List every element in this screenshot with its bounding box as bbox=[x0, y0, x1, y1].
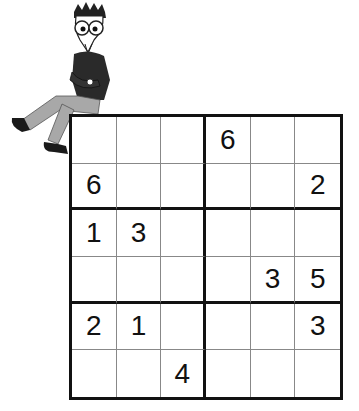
sudoku-cell[interactable] bbox=[251, 350, 296, 397]
sudoku-cell[interactable]: 4 bbox=[161, 350, 206, 397]
sudoku-cell[interactable] bbox=[251, 304, 296, 351]
sudoku-cell[interactable]: 3 bbox=[117, 210, 162, 257]
sudoku-cell[interactable]: 1 bbox=[72, 210, 117, 257]
sudoku-cell[interactable] bbox=[251, 117, 296, 164]
sudoku-cell[interactable] bbox=[117, 350, 162, 397]
sudoku-cell[interactable] bbox=[295, 117, 340, 164]
sudoku-cell[interactable] bbox=[251, 164, 296, 211]
sudoku-cell[interactable] bbox=[295, 210, 340, 257]
sudoku-cell[interactable] bbox=[117, 164, 162, 211]
sudoku-cell[interactable] bbox=[117, 257, 162, 304]
sudoku-grid: 66213352134 bbox=[69, 114, 343, 400]
sudoku-cell[interactable] bbox=[206, 164, 251, 211]
sudoku-cell[interactable] bbox=[161, 164, 206, 211]
sudoku-cell[interactable] bbox=[295, 350, 340, 397]
sudoku-cell[interactable]: 3 bbox=[295, 304, 340, 351]
sudoku-cell[interactable] bbox=[206, 350, 251, 397]
sudoku-cell[interactable]: 3 bbox=[251, 257, 296, 304]
sudoku-cell[interactable]: 2 bbox=[72, 304, 117, 351]
sudoku-cell[interactable]: 6 bbox=[206, 117, 251, 164]
sudoku-cell[interactable] bbox=[206, 257, 251, 304]
sudoku-cell[interactable] bbox=[161, 304, 206, 351]
sudoku-cell[interactable] bbox=[206, 304, 251, 351]
sudoku-cell[interactable] bbox=[72, 257, 117, 304]
sudoku-cell[interactable] bbox=[72, 117, 117, 164]
sudoku-cell[interactable]: 6 bbox=[72, 164, 117, 211]
sudoku-cell[interactable]: 1 bbox=[117, 304, 162, 351]
sudoku-cell[interactable] bbox=[161, 210, 206, 257]
sudoku-cell[interactable]: 2 bbox=[295, 164, 340, 211]
sudoku-cell[interactable]: 5 bbox=[295, 257, 340, 304]
sudoku-cell[interactable] bbox=[161, 257, 206, 304]
sudoku-cell[interactable] bbox=[161, 117, 206, 164]
sudoku-cell[interactable] bbox=[251, 210, 296, 257]
sudoku-cell[interactable] bbox=[72, 350, 117, 397]
sudoku-cell[interactable] bbox=[206, 210, 251, 257]
sudoku-cell[interactable] bbox=[117, 117, 162, 164]
